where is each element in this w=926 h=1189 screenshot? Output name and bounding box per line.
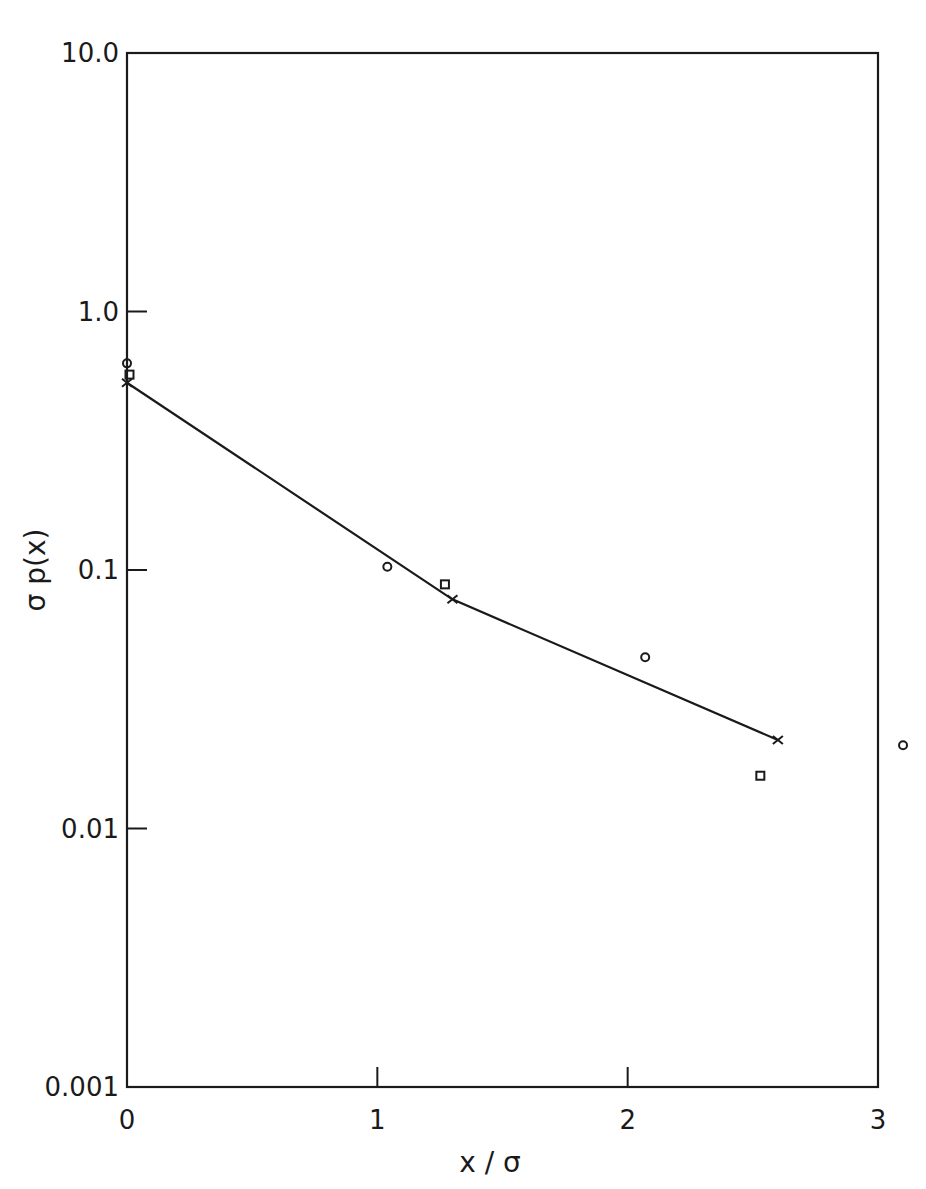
cross-marker <box>773 736 783 744</box>
cross-marker <box>447 595 457 603</box>
circle-marker <box>641 653 649 661</box>
square-marker <box>756 772 764 780</box>
x-axis-title: x / σ <box>459 1146 521 1179</box>
chart-canvas: 10.01.00.10.010.001 0123 x / σ σ p(x) <box>0 0 926 1189</box>
series-markers <box>122 359 907 779</box>
series-line <box>127 383 778 740</box>
x-axis: 0123 <box>119 1067 887 1135</box>
x-tick-label: 1 <box>369 1105 386 1135</box>
x-tick-label: 0 <box>119 1105 136 1135</box>
series-lines <box>127 383 778 740</box>
y-tick-label: 10.0 <box>61 38 119 68</box>
plot-frame <box>127 53 878 1087</box>
circle-marker <box>899 741 907 749</box>
square-marker <box>441 580 449 588</box>
y-tick-label: 1.0 <box>78 297 119 327</box>
y-axis: 10.01.00.10.010.001 <box>45 38 147 1102</box>
y-tick-label: 0.1 <box>78 555 119 585</box>
circle-marker <box>383 563 391 571</box>
y-tick-label: 0.01 <box>61 814 119 844</box>
y-tick-label: 0.001 <box>45 1072 119 1102</box>
y-axis-title: σ p(x) <box>19 529 52 612</box>
x-tick-label: 2 <box>619 1105 636 1135</box>
x-tick-label: 3 <box>870 1105 887 1135</box>
